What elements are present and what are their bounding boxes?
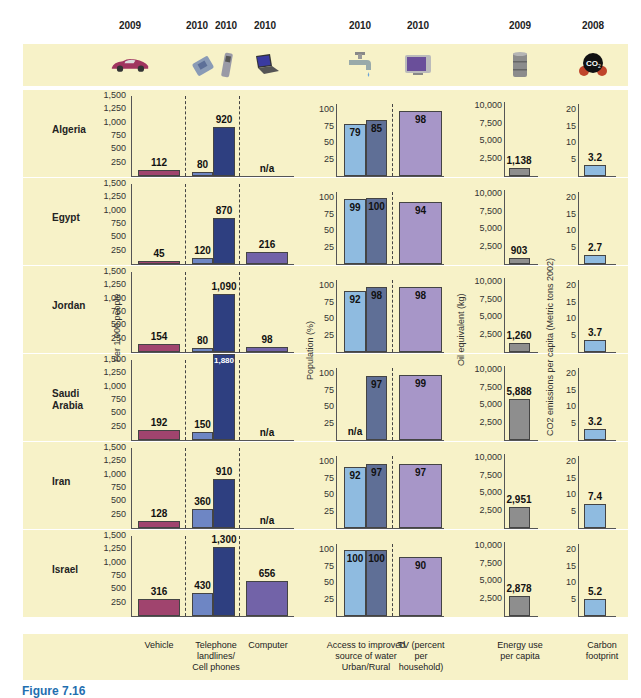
value-label: 870 [204, 205, 244, 216]
axis-tick: 250 [86, 157, 126, 167]
carbon-bar [584, 599, 606, 616]
axis-tick: 7,500 [460, 558, 502, 568]
divider [239, 448, 240, 528]
landline-bar [192, 593, 213, 616]
axis-tick: 1,250 [86, 279, 126, 289]
value-label: 5.2 [575, 586, 615, 597]
value-label: 1,880 [204, 356, 244, 365]
cell-phone-bar [213, 218, 235, 264]
tv-icon [398, 48, 438, 82]
value-label: n/a [247, 163, 287, 174]
computer-bar [246, 347, 288, 352]
axis-tick: 2,500 [460, 593, 502, 603]
axis-tick: 500 [86, 407, 126, 417]
axis-tick: 2,500 [460, 241, 502, 251]
axis-tick: 10 [532, 577, 576, 587]
axis-tick: 25 [292, 154, 334, 164]
y-axis-label: CO2 emissions per capita (Metric tons 20… [545, 258, 555, 436]
y-axis-label: Population (%) [305, 321, 315, 380]
x-axis [131, 528, 294, 529]
x-axis [131, 352, 294, 353]
carbon-bar [584, 340, 606, 352]
axis-tick: 15 [532, 473, 576, 483]
landline-bar [192, 432, 213, 440]
axis-tick: 5,000 [460, 399, 502, 409]
svg-text:CO: CO [586, 59, 598, 68]
value-label: 97 [401, 467, 441, 478]
value-label: 192 [139, 417, 179, 428]
axis-tick: 75 [292, 297, 334, 307]
energy-bar [509, 343, 530, 352]
axis-tick: 750 [86, 482, 126, 492]
y-axis [578, 368, 579, 440]
axis-tick: 750 [86, 218, 126, 228]
carbon-bar [584, 429, 606, 440]
axis-tick: 25 [292, 506, 334, 516]
year-label: 2009 [110, 20, 150, 31]
divider [185, 536, 186, 616]
axis-tick: 100 [292, 544, 334, 554]
x-axis [336, 528, 444, 529]
divider [239, 96, 240, 176]
year-label: 2010 [245, 20, 285, 31]
value-label: 98 [401, 290, 441, 301]
energy-bar [509, 399, 530, 440]
axis-tick: 7,500 [460, 206, 502, 216]
value-label: 45 [139, 248, 179, 259]
axis-tick: 75 [292, 121, 334, 131]
svg-text:2: 2 [598, 63, 601, 69]
axis-tick: 1,000 [86, 381, 126, 391]
axis-tick: 10,000 [460, 188, 502, 198]
x-axis [131, 176, 294, 177]
axis-tick: 10,000 [460, 276, 502, 286]
category-label-tv: TV (percent per household) [394, 640, 448, 673]
cell-phone-bar [213, 354, 235, 440]
figure-caption: Figure 7.16 [22, 684, 85, 698]
axis-tick: 1,250 [86, 455, 126, 465]
x-axis [336, 264, 444, 265]
y-axis [504, 542, 505, 616]
category-label-computer: Computer [239, 640, 297, 651]
vehicle-bar [138, 430, 180, 440]
x-axis [578, 352, 616, 353]
axis-tick: 1,000 [86, 205, 126, 215]
y-axis [336, 456, 337, 528]
energy-bar [509, 596, 530, 616]
axis-tick: 5,000 [460, 487, 502, 497]
axis-tick: 7,500 [460, 382, 502, 392]
category-label-energy: Energy use per capita [490, 640, 550, 662]
axis-tick: 10,000 [460, 364, 502, 374]
year-label: 2008 [573, 20, 613, 31]
year-label: 2009 [500, 20, 540, 31]
value-label: n/a [247, 427, 287, 438]
value-label: 100 [357, 201, 397, 212]
value-label: 920 [204, 114, 244, 125]
year-label: 2010 [398, 20, 438, 31]
axis-tick: 50 [292, 225, 334, 235]
axis-tick: 75 [292, 473, 334, 483]
value-label: 98 [247, 334, 287, 345]
y-axis [504, 366, 505, 440]
divider [239, 184, 240, 264]
landline-bar [192, 348, 213, 352]
axis-tick: 20 [532, 544, 576, 554]
cell-phone-bar [213, 127, 235, 176]
axis-tick: 20 [532, 192, 576, 202]
axis-tick: 10,000 [460, 452, 502, 462]
value-label: 7.4 [575, 491, 615, 502]
axis-tick: 5,000 [460, 575, 502, 585]
y-axis [131, 360, 132, 440]
axis-tick: 15 [532, 561, 576, 571]
axis-tick: 15 [532, 209, 576, 219]
axis-tick: 750 [86, 130, 126, 140]
value-label: 656 [247, 568, 287, 579]
x-axis [131, 264, 294, 265]
x-axis [578, 264, 616, 265]
axis-tick: 500 [86, 231, 126, 241]
axis-tick: 2,500 [460, 417, 502, 427]
vehicle-bar [138, 170, 180, 176]
x-axis [336, 440, 444, 441]
axis-tick: 5 [532, 154, 576, 164]
axis-tick: 50 [292, 137, 334, 147]
carbon-bar [584, 165, 606, 176]
